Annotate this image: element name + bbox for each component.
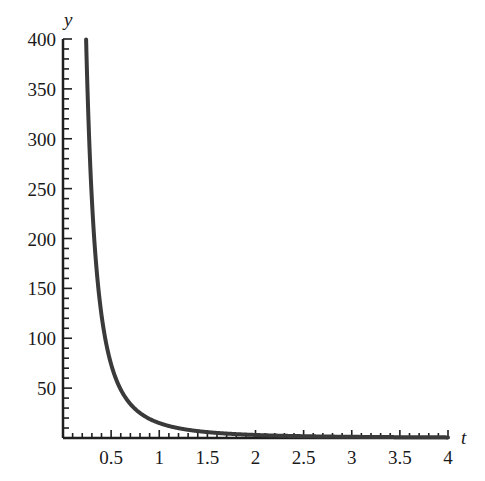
y-tick-label: 350 [28, 79, 57, 100]
ticks [63, 39, 448, 438]
x-tick-label: 0.5 [99, 447, 123, 468]
y-tick-label: 150 [28, 278, 57, 299]
data-curve [86, 39, 448, 437]
chart: 0.511.522.533.5450100150200250300350400 … [0, 0, 485, 481]
x-tick-label: 1.5 [196, 447, 220, 468]
x-tick-label: 4 [443, 447, 453, 468]
y-tick-label: 300 [28, 129, 57, 150]
y-tick-label: 250 [28, 179, 57, 200]
y-tick-label: 200 [28, 229, 57, 250]
x-tick-label: 2 [251, 447, 261, 468]
x-tick-label: 2.5 [292, 447, 316, 468]
x-tick-label: 1 [155, 447, 165, 468]
tick-labels: 0.511.522.533.5450100150200250300350400 [28, 29, 454, 468]
axes [63, 39, 448, 438]
y-axis-label: y [62, 9, 73, 30]
plot-area: 0.511.522.533.5450100150200250300350400 … [0, 0, 485, 481]
x-axis-label: t [461, 427, 467, 448]
x-tick-label: 3 [347, 447, 357, 468]
y-tick-label: 400 [28, 29, 57, 50]
y-tick-label: 100 [28, 328, 57, 349]
y-tick-label: 50 [37, 378, 56, 399]
x-tick-label: 3.5 [388, 447, 412, 468]
